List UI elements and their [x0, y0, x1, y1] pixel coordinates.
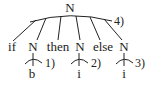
child-n3: N	[119, 39, 129, 54]
parse-tree-diagram: N 4) if N then N else N b 1) i 2) i 3)	[0, 0, 148, 85]
root-annotation: 4)	[114, 14, 124, 28]
child-then: then	[47, 39, 70, 54]
edge-n1	[37, 18, 46, 40]
child-if: if	[8, 39, 17, 54]
edge-n2	[76, 16, 80, 40]
subtree1-leaf: b	[29, 66, 36, 81]
root-node: N	[65, 0, 75, 15]
subtree2-annotation: 2)	[91, 56, 101, 70]
root-arc	[30, 16, 112, 22]
edge-if	[13, 20, 36, 41]
subtree2-leaf: i	[77, 66, 81, 81]
child-n2: N	[75, 39, 85, 54]
child-else: else	[93, 39, 113, 54]
edge-else	[90, 17, 100, 40]
subtree3-annotation: 3)	[135, 56, 145, 70]
edge-then	[58, 16, 61, 40]
child-n1: N	[28, 39, 38, 54]
subtree1-annotation: 1)	[45, 56, 55, 70]
subtree3-leaf: i	[122, 66, 126, 81]
